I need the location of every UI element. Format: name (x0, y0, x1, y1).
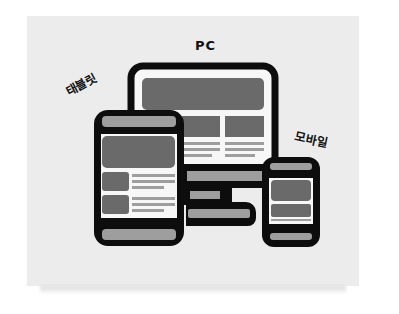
pc-label: PC (195, 38, 216, 53)
tablet-icon (94, 110, 184, 246)
mobile-phone-icon (262, 157, 320, 247)
